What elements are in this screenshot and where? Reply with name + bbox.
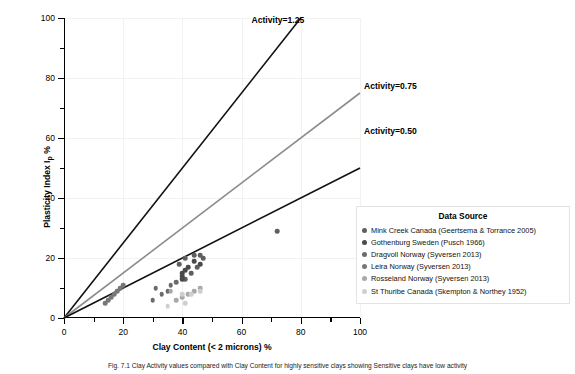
x-axis-tick-label: 20 bbox=[118, 327, 127, 337]
legend-item[interactable]: Leira Norway (Syversen 2013) bbox=[362, 261, 564, 273]
legend-marker-icon bbox=[362, 228, 367, 233]
scatter-point bbox=[121, 283, 126, 288]
y-axis-title: Plasticity Index Ip % bbox=[42, 146, 52, 228]
scatter-point bbox=[168, 283, 173, 288]
x-axis-tick bbox=[182, 318, 183, 324]
scatter-point bbox=[183, 301, 188, 306]
reference-line-label: Activity=0.75 bbox=[364, 81, 417, 91]
legend-item[interactable]: Mink Creek Canada (Geertsema & Torrance … bbox=[362, 224, 564, 236]
x-axis-tick bbox=[64, 318, 65, 324]
scatter-point bbox=[189, 292, 194, 297]
x-axis-title: Clay Content (< 2 microns) % bbox=[64, 342, 360, 352]
legend-marker-icon bbox=[362, 240, 367, 245]
legend-item-label: St Thuribe Canada (Skempton & Northey 19… bbox=[371, 287, 527, 296]
scatter-point bbox=[174, 298, 179, 303]
scatter-point bbox=[275, 229, 280, 234]
legend-marker-icon bbox=[362, 289, 367, 294]
x-axis-tick-minor bbox=[153, 318, 154, 322]
reference-line bbox=[64, 93, 360, 318]
x-axis-tick-label: 40 bbox=[178, 327, 187, 337]
legend-item[interactable]: Gothenburg Sweden (Pusch 1966) bbox=[362, 236, 564, 248]
scatter-point bbox=[180, 292, 185, 297]
scatter-point bbox=[159, 292, 164, 297]
legend-item-label: Dragvoll Norway (Syversen 2013) bbox=[371, 250, 482, 259]
x-axis-tick bbox=[242, 318, 243, 324]
legend-title: Data Source bbox=[362, 211, 564, 221]
y-axis-tick-label: 100 bbox=[41, 13, 55, 23]
scatter-point bbox=[198, 289, 203, 294]
scatter-point bbox=[177, 262, 182, 267]
scatter-point bbox=[174, 280, 179, 285]
legend-marker-icon bbox=[362, 276, 367, 281]
scatter-point bbox=[192, 259, 197, 264]
y-axis-title-subscript: p bbox=[46, 156, 53, 160]
y-axis-title-suffix: % bbox=[42, 146, 52, 156]
scatter-point bbox=[106, 298, 111, 303]
x-axis-tick-label: 80 bbox=[296, 327, 305, 337]
legend-item[interactable]: Dragvoll Norway (Syversen 2013) bbox=[362, 248, 564, 260]
legend-item-label: Gothenburg Sweden (Pusch 1966) bbox=[371, 238, 485, 247]
reference-line-label: Activity=1.25 bbox=[252, 15, 305, 25]
scatter-point bbox=[168, 289, 173, 294]
x-axis-tick bbox=[301, 318, 302, 324]
scatter-point bbox=[201, 256, 206, 261]
scatter-point bbox=[189, 271, 194, 276]
x-axis-tick-label: 0 bbox=[62, 327, 67, 337]
scatter-point bbox=[198, 262, 203, 267]
y-axis-tick-label: 40 bbox=[46, 193, 55, 203]
scatter-point bbox=[165, 304, 170, 309]
scatter-point bbox=[180, 277, 185, 282]
scatter-point bbox=[192, 253, 197, 258]
scatter-point bbox=[153, 286, 158, 291]
scatter-point bbox=[183, 256, 188, 261]
legend-marker-icon bbox=[362, 264, 367, 269]
reference-line-label: Activity=0.50 bbox=[364, 126, 417, 136]
y-axis-tick-label: 80 bbox=[46, 73, 55, 83]
plot-frame: 020406080100020406080100 bbox=[64, 18, 360, 318]
y-axis-tick-label: 20 bbox=[46, 253, 55, 263]
legend-item[interactable]: Rosseland Norway (Syversen 2013) bbox=[362, 273, 564, 285]
x-axis-tick-label: 100 bbox=[353, 327, 367, 337]
plot-area: 020406080100020406080100 bbox=[64, 18, 360, 318]
x-axis-tick-minor bbox=[271, 318, 272, 322]
x-axis-tick-label: 60 bbox=[237, 327, 246, 337]
scatter-point bbox=[151, 298, 156, 303]
legend-item-label: Leira Norway (Syversen 2013) bbox=[371, 262, 471, 271]
scatter-point bbox=[186, 265, 191, 270]
legend-item-label: Rosseland Norway (Syversen 2013) bbox=[371, 274, 489, 283]
x-axis-tick bbox=[360, 318, 361, 324]
y-axis-tick-label: 60 bbox=[46, 133, 55, 143]
legend: Data Source Mink Creek Canada (Geertsema… bbox=[356, 206, 570, 304]
legend-item[interactable]: St Thuribe Canada (Skempton & Northey 19… bbox=[362, 285, 564, 297]
figure-container: Plasticity Index Ip % Clay Content (< 2 … bbox=[0, 0, 575, 374]
x-axis-tick bbox=[123, 318, 124, 324]
figure-caption: Fig. 7.1 Clay Activity values compared w… bbox=[30, 362, 545, 373]
y-axis-tick-label: 0 bbox=[50, 313, 55, 323]
x-axis-tick-minor bbox=[94, 318, 95, 322]
legend-marker-icon bbox=[362, 252, 367, 257]
x-axis-tick-minor bbox=[212, 318, 213, 322]
legend-rows: Mink Creek Canada (Geertsema & Torrance … bbox=[362, 224, 564, 297]
x-axis-tick-minor bbox=[330, 318, 331, 322]
legend-item-label: Mink Creek Canada (Geertsema & Torrance … bbox=[371, 226, 536, 235]
reference-lines bbox=[64, 18, 360, 318]
